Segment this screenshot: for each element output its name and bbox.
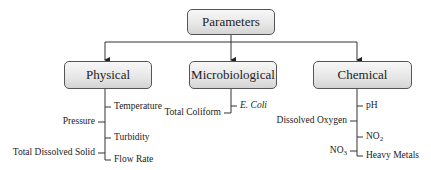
- leaf-heavy-metals: Heavy Metals: [366, 150, 419, 161]
- leaf-temperature: Temperature: [114, 101, 162, 112]
- leaf-e-coli-text: E. Coli: [240, 100, 267, 110]
- leaf-total-coliform: Total Coliform: [164, 107, 221, 118]
- root-node-label: Parameters: [202, 14, 260, 30]
- category-label-microbiological: Microbiological: [191, 67, 275, 83]
- leaf-e-coli: E. Coli: [240, 100, 267, 111]
- leaf-dissolved-oxygen: Dissolved Oxygen: [277, 115, 347, 126]
- category-node-microbiological: Microbiological: [189, 61, 277, 89]
- leaf-turbidity: Turbidity: [114, 132, 150, 143]
- category-node-physical: Physical: [64, 61, 152, 89]
- leaf-no2: NO2: [366, 131, 383, 142]
- category-node-chemical: Chemical: [313, 61, 412, 89]
- leaf-ph: pH: [366, 100, 378, 111]
- root-node-parameters: Parameters: [187, 9, 275, 35]
- category-label-physical: Physical: [86, 67, 130, 83]
- leaf-no3: NO3: [330, 145, 347, 156]
- category-label-chemical: Chemical: [338, 67, 388, 83]
- leaf-flow-rate: Flow Rate: [114, 154, 153, 165]
- leaf-total-dissolved-solid: Total Dissolved Solid: [13, 147, 95, 158]
- leaf-pressure: Pressure: [63, 116, 95, 127]
